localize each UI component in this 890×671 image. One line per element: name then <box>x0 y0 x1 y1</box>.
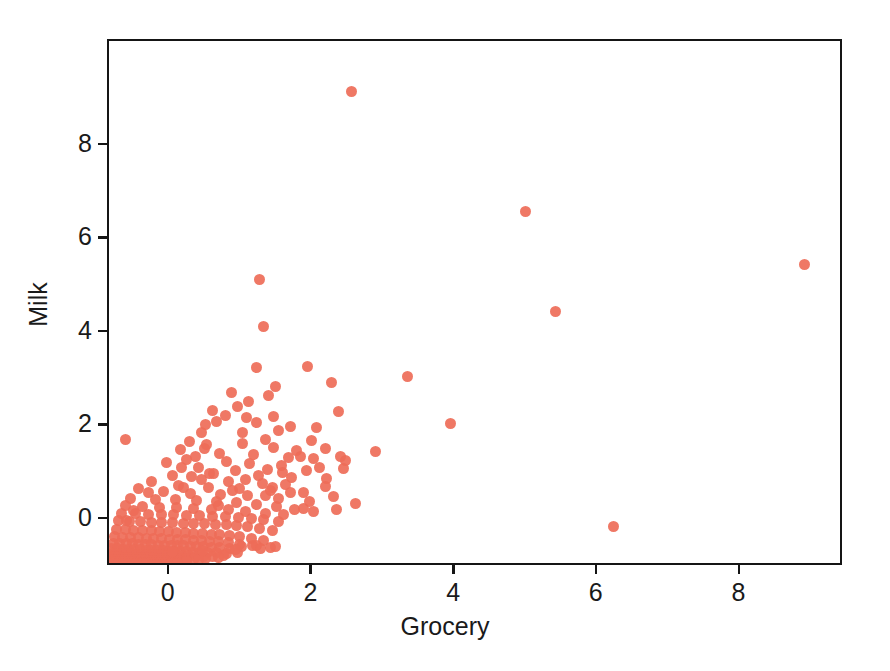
data-point <box>213 500 224 511</box>
data-point <box>186 471 197 482</box>
data-point <box>370 446 381 457</box>
y-tick-label: 6 <box>52 222 92 251</box>
data-point <box>204 468 215 479</box>
data-point <box>333 406 344 417</box>
data-point <box>277 467 288 478</box>
data-point <box>213 552 224 563</box>
data-point <box>520 206 531 217</box>
y-axis-label-wrapper: Milk <box>18 0 54 671</box>
data-point <box>311 422 322 433</box>
x-tick-label: 2 <box>285 578 335 607</box>
data-point <box>273 425 284 436</box>
data-point <box>258 321 269 332</box>
data-point <box>285 421 296 432</box>
data-point <box>220 410 231 421</box>
data-point <box>243 396 254 407</box>
data-point <box>172 558 183 563</box>
data-point <box>226 387 237 398</box>
data-point <box>167 546 178 557</box>
data-point <box>445 418 456 429</box>
x-tick-mark <box>595 565 598 574</box>
y-tick-label: 2 <box>52 409 92 438</box>
x-axis-label: Grocery <box>0 612 890 641</box>
y-tick-label: 4 <box>52 316 92 345</box>
data-point <box>237 438 248 449</box>
data-point <box>251 417 262 428</box>
x-tick-label: 4 <box>428 578 478 607</box>
data-point <box>230 544 241 555</box>
x-tick-label: 6 <box>571 578 621 607</box>
data-point <box>207 405 218 416</box>
data-point <box>240 474 251 485</box>
data-point <box>283 452 294 463</box>
data-point <box>306 435 317 446</box>
data-point <box>608 521 619 532</box>
data-point <box>260 490 271 501</box>
data-points-layer <box>109 41 840 563</box>
data-point <box>308 506 319 517</box>
data-point <box>320 443 331 454</box>
x-tick-label: 0 <box>143 578 193 607</box>
data-point <box>120 434 131 445</box>
x-tick-label: 8 <box>714 578 764 607</box>
data-point <box>320 481 331 492</box>
data-point <box>402 371 413 382</box>
y-tick-mark <box>98 517 107 520</box>
data-point <box>254 523 265 534</box>
data-point <box>550 306 561 317</box>
data-point <box>326 377 337 388</box>
data-point <box>338 463 349 474</box>
y-tick-mark <box>98 236 107 239</box>
data-point <box>301 465 312 476</box>
data-point <box>267 525 278 536</box>
data-point <box>200 419 211 430</box>
data-point <box>231 520 242 531</box>
x-tick-mark <box>309 565 312 574</box>
data-point <box>184 436 195 447</box>
data-point <box>203 482 214 493</box>
data-point <box>175 444 186 455</box>
data-point <box>251 499 262 510</box>
data-point <box>295 451 306 462</box>
data-point <box>270 541 281 552</box>
data-point <box>143 487 154 498</box>
data-point <box>328 491 339 502</box>
data-point <box>799 259 810 270</box>
x-tick-mark <box>738 565 741 574</box>
data-point <box>251 362 262 373</box>
y-tick-label: 8 <box>52 129 92 158</box>
y-tick-mark <box>98 423 107 426</box>
y-tick-label: 0 <box>52 503 92 532</box>
data-point <box>242 521 253 532</box>
data-point <box>268 411 279 422</box>
plot-area <box>107 39 842 565</box>
scatter-plot-figure: 02468 02468 Grocery Milk <box>0 0 890 671</box>
y-tick-mark <box>98 330 107 333</box>
data-point <box>248 449 259 460</box>
data-point <box>285 487 296 498</box>
x-tick-mark <box>167 565 170 574</box>
data-point <box>302 361 313 372</box>
y-tick-mark <box>98 143 107 146</box>
data-point <box>350 498 361 509</box>
data-point <box>230 465 241 476</box>
y-axis-label: Milk <box>24 225 53 385</box>
data-point <box>242 490 253 501</box>
data-point <box>146 476 157 487</box>
data-point <box>254 274 265 285</box>
data-point <box>232 401 243 412</box>
data-point <box>331 504 342 515</box>
data-point <box>237 427 248 438</box>
data-point <box>227 485 238 496</box>
data-point <box>255 543 266 554</box>
x-tick-mark <box>452 565 455 574</box>
data-point <box>263 390 274 401</box>
data-point <box>201 439 212 450</box>
data-point <box>268 442 279 453</box>
data-point <box>161 457 172 468</box>
data-point <box>214 448 225 459</box>
data-point <box>346 86 357 97</box>
